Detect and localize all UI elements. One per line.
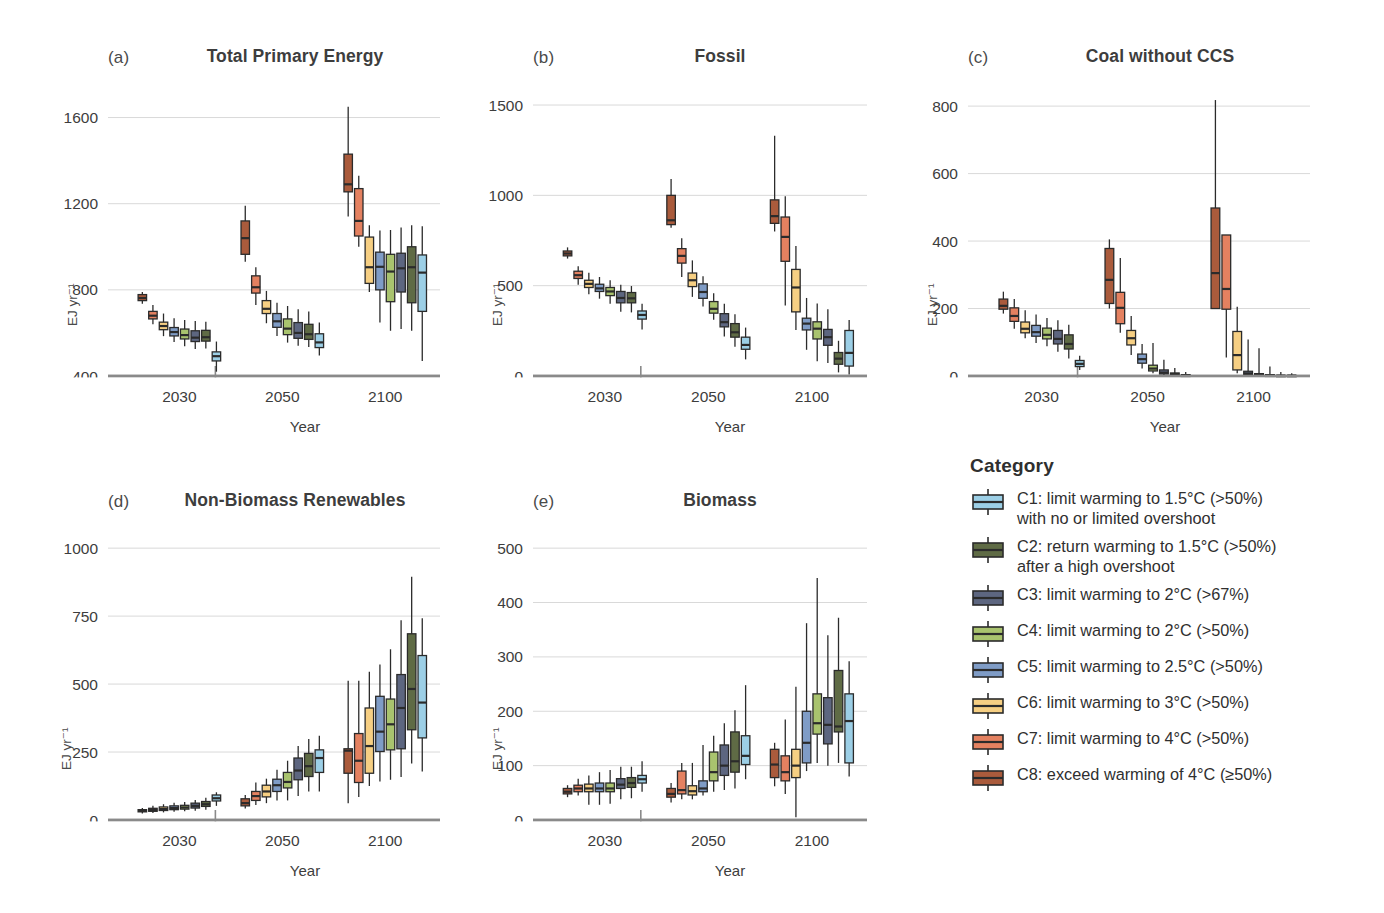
- y-tick-label: 400: [932, 233, 958, 250]
- panel-c: (c) Coal without CCS EJ yr⁻¹ 02004006008…: [890, 36, 1360, 436]
- box-plot-d-C8-2030: [138, 808, 146, 813]
- legend-item-C4[interactable]: C4: limit warming to 2°C (>50%): [968, 619, 1378, 648]
- box-plot-b-C2-2100: [834, 341, 843, 373]
- box-plot-d-C8-2050: [241, 795, 249, 809]
- box-plot-a-C7-2050: [252, 267, 260, 305]
- panel-d-plot: 02505007501000203020502100: [20, 480, 480, 880]
- panel-c-plot: 0200400600800203020502100: [890, 36, 1360, 436]
- box-plot-b-C2-2030: [627, 286, 636, 312]
- panel-b: (b) Fossil EJ yr⁻¹ 050010001500203020502…: [455, 36, 915, 436]
- box-plot-d-C3-2030: [191, 800, 199, 811]
- box-plot-c-C8-2030: [999, 292, 1008, 314]
- y-tick-label: 800: [932, 98, 958, 115]
- legend-item-C8[interactable]: C8: exceed warming of 4°C (≥50%): [968, 763, 1378, 792]
- box-plot-a-C3-2030: [191, 321, 199, 349]
- legend-title: Category: [970, 455, 1378, 477]
- box-plot-c-C8-2050: [1105, 239, 1114, 308]
- y-tick-label: 1500: [489, 97, 524, 114]
- box-plot-c-C7-2030: [1010, 299, 1019, 329]
- box-plot-d-C7-2100: [355, 681, 363, 797]
- box-plot-e-C5-2030: [595, 772, 604, 805]
- box-plot-d-C4-2030: [180, 802, 188, 811]
- y-tick-label: 300: [497, 648, 523, 665]
- box-plot-a-C5-2100: [376, 231, 384, 323]
- panel-b-plot: 050010001500203020502100: [455, 36, 915, 436]
- box-plot-a-C8-2100: [344, 107, 352, 217]
- y-tick-label: 1200: [64, 195, 99, 212]
- legend-label-C4: C4: limit warming to 2°C (>50%): [1017, 619, 1249, 641]
- legend-rows: C1: limit warming to 1.5°C (>50%)with no…: [968, 487, 1378, 792]
- y-tick-label: 500: [497, 277, 523, 294]
- y-tick-label: 500: [497, 540, 523, 557]
- box-plot-d-C7-2050: [252, 782, 260, 805]
- y-tick-label: 800: [72, 281, 98, 298]
- box-plot-e-C1-2050: [741, 685, 750, 779]
- box-plot-c-C6-2100: [1233, 307, 1242, 373]
- box-plot-c-C7-2100: [1222, 235, 1231, 357]
- y-tick-label: 250: [72, 744, 98, 761]
- box-plot-e-C4-2030: [606, 770, 615, 804]
- legend-swatch-C5-icon: [968, 656, 1008, 684]
- box-plot-d-C6-2100: [365, 672, 373, 786]
- legend-label-C8: C8: exceed warming of 4°C (≥50%): [1017, 763, 1272, 785]
- box-plot-c-C3-2050: [1160, 360, 1169, 375]
- box-plot-a-C5-2050: [273, 303, 281, 336]
- y-tick-label: 750: [72, 608, 98, 625]
- box-plot-e-C2-2030: [627, 767, 636, 799]
- box-plot-a-C6-2050: [262, 291, 270, 323]
- legend-item-C3[interactable]: C3: limit warming to 2°C (>67%): [968, 583, 1378, 612]
- box-plot-b-C8-2050: [667, 179, 676, 228]
- box-plot-c-C4-2050: [1149, 343, 1158, 373]
- box-plot-d-C6-2050: [262, 779, 270, 803]
- legend-item-C6[interactable]: C6: limit warming to 3°C (>50%): [968, 691, 1378, 720]
- box-plot-e-C3-2030: [617, 767, 626, 800]
- box-plot-b-C3-2100: [824, 309, 833, 363]
- legend-swatch-C6-icon: [968, 692, 1008, 720]
- y-tick-label: 200: [932, 300, 958, 317]
- box-plot-e-C7-2030: [574, 779, 583, 796]
- box-plot-a-C4-2100: [386, 230, 394, 331]
- box-plot-a-C7-2030: [149, 305, 157, 324]
- legend-label-C3: C3: limit warming to 2°C (>67%): [1017, 583, 1249, 605]
- legend-item-C2[interactable]: C2: return warming to 1.5°C (>50%)after …: [968, 535, 1378, 576]
- y-tick-label: 1000: [64, 540, 99, 557]
- box-plot-b-C8-2100: [770, 136, 779, 232]
- box-plot-c-C2-2050: [1170, 368, 1179, 376]
- box-plot-b-C7-2050: [677, 238, 686, 277]
- box-plot-b-C5-2030: [595, 277, 604, 299]
- legend-swatch-C3-icon: [968, 584, 1008, 612]
- box-plot-b-C6-2030: [585, 273, 594, 295]
- panel-b-xlabel: Year: [565, 418, 895, 435]
- panel-c-xlabel: Year: [1000, 418, 1330, 435]
- box-plot-e-C4-2100: [813, 578, 822, 763]
- box-plot-b-C8-2030: [563, 247, 572, 258]
- legend-item-C5[interactable]: C5: limit warming to 2.5°C (>50%): [968, 655, 1378, 684]
- box-plot-b-C1-2100: [845, 320, 854, 375]
- box-plot-d-C4-2050: [283, 761, 291, 801]
- box-plot-c-C4-2100: [1255, 348, 1264, 375]
- box-plot-d-C4-2100: [386, 649, 394, 779]
- legend-swatch-C2-icon: [968, 536, 1008, 564]
- legend-label-C1-line2: with no or limited overshoot: [1017, 509, 1263, 529]
- legend-swatch-C7-icon: [968, 728, 1008, 756]
- box-plot-e-C7-2100: [781, 719, 790, 793]
- box-plot-a-C1-2030: [212, 342, 220, 372]
- legend-label-C2: C2: return warming to 1.5°C (>50%)after …: [1017, 535, 1276, 576]
- y-tick-label: 600: [932, 165, 958, 182]
- box-plot-e-C8-2050: [667, 783, 676, 803]
- legend-item-C1[interactable]: C1: limit warming to 1.5°C (>50%)with no…: [968, 487, 1378, 528]
- box-plot-a-C6-2100: [365, 225, 373, 292]
- legend-swatch-C1-icon: [968, 488, 1008, 516]
- y-tick-label: 200: [497, 703, 523, 720]
- box-plot-b-C1-2030: [638, 304, 647, 330]
- box-plot-d-C1-2050: [315, 736, 323, 792]
- box-plot-d-C2-2030: [202, 798, 210, 810]
- box-plot-b-C1-2050: [741, 328, 750, 360]
- box-plot-e-C8-2100: [770, 743, 779, 786]
- box-plot-c-C8-2100: [1211, 100, 1220, 308]
- box-plot-d-C8-2100: [344, 681, 352, 803]
- box-plot-b-C4-2100: [813, 303, 822, 361]
- box-plot-e-C5-2050: [699, 745, 708, 796]
- legend-item-C7[interactable]: C7: limit warming to 4°C (>50%): [968, 727, 1378, 756]
- panel-e: (e) Biomass EJ yr⁻¹ 01002003004005002030…: [455, 480, 915, 880]
